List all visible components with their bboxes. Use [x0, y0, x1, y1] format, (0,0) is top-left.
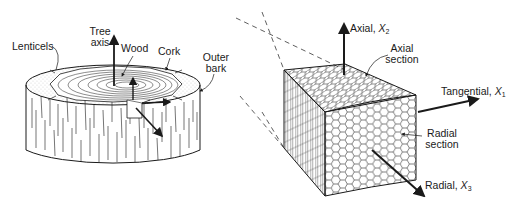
- lenticels-label: Lenticels: [12, 41, 53, 52]
- tangential-sub: 1: [502, 91, 506, 98]
- radial-axis-text: Radial,: [425, 179, 461, 191]
- tangential-var: X: [495, 85, 502, 97]
- cellular-cube: [284, 24, 478, 196]
- axial-x2-label: Axial, X2: [350, 23, 390, 37]
- radial-section-label: Radial section: [422, 128, 462, 150]
- tree-axis-label-line2: axis: [83, 37, 117, 48]
- radial-x3-label: Radial, X3: [425, 180, 472, 194]
- axial-section-label: Axial section: [382, 43, 422, 65]
- outer-bark-label: Outer bark: [198, 52, 234, 74]
- axial-sub: 2: [386, 28, 390, 35]
- tangential-x1-arrow: [418, 99, 478, 112]
- radial-sub: 3: [468, 185, 472, 192]
- log-cross-section: [26, 36, 214, 163]
- cork-leader: [166, 58, 170, 70]
- radial-var: X: [461, 179, 468, 191]
- cork-label: Cork: [158, 46, 180, 57]
- outer-bark-leader: [200, 74, 214, 91]
- axial-axis-text: Axial,: [350, 22, 379, 34]
- outer-bark-label-line2: bark: [198, 63, 234, 74]
- wood-structure-diagram: Tree axis Lenticels Wood Cork Outer bark…: [0, 0, 521, 208]
- axial-var: X: [379, 22, 386, 34]
- axial-section-line2: section: [382, 54, 422, 65]
- tangential-x1-label: Tangential, X1: [441, 86, 506, 100]
- wood-label: Wood: [121, 43, 148, 54]
- radial-section-line2: section: [422, 139, 462, 150]
- tangential-axis-text: Tangential,: [441, 85, 495, 97]
- radial-section-face: [325, 95, 416, 196]
- tree-axis-label: Tree axis: [83, 26, 117, 48]
